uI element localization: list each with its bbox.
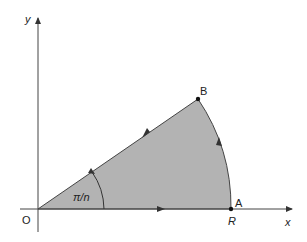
point-b-label: B — [200, 85, 207, 97]
point-a — [229, 207, 233, 211]
sector-diagram: y x O B A R π/n — [0, 0, 307, 242]
y-axis-label: y — [24, 13, 32, 25]
shaded-sector — [38, 99, 231, 209]
angle-label: π/n — [73, 191, 90, 203]
origin-label: O — [22, 214, 31, 226]
point-b — [196, 97, 200, 101]
point-a-label: A — [235, 197, 243, 209]
radius-label: R — [228, 215, 236, 227]
x-axis-label: x — [284, 216, 291, 228]
